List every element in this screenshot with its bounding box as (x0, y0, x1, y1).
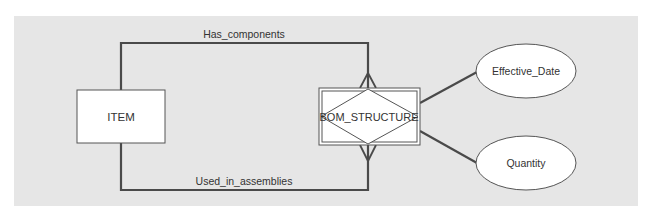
crows-foot-icon (360, 145, 368, 161)
attribute-effective-date[interactable]: Effective_Date (476, 44, 576, 98)
attribute-quantity[interactable]: Quantity (476, 136, 576, 190)
attribute-quantity-label: Quantity (506, 157, 546, 169)
relationship-label-used-in-assemblies: Used_in_assemblies (196, 175, 293, 187)
relationship-used-in-assemblies: Used_in_assemblies (121, 143, 376, 190)
attribute-connector-quantity (420, 131, 477, 163)
entity-item[interactable]: ITEM (77, 90, 165, 143)
crows-foot-icon (360, 73, 368, 88)
relationship-label-has-components: Has_components (203, 28, 285, 40)
relationship-has-components: Has_components (121, 28, 376, 90)
entity-item-label: ITEM (107, 111, 134, 123)
er-diagram: Has_components Used_in_assemblies ITEM B… (0, 0, 652, 213)
entity-bom-structure-label: BOM_STRUCTURE (319, 111, 418, 123)
attribute-connector-effective-date (420, 72, 477, 103)
entity-bom-structure[interactable]: BOM_STRUCTURE (319, 88, 420, 145)
attribute-effective-date-label: Effective_Date (492, 65, 560, 77)
